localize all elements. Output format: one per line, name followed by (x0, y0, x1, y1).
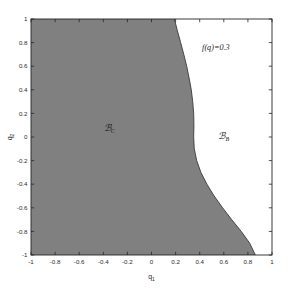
x-tick-label: 0.4 (195, 258, 204, 265)
contour-value-label: f(q)=0.3 (202, 43, 230, 52)
x-tick-label: -1 (28, 258, 34, 265)
x-tick-label: 1 (270, 258, 274, 265)
x-axis-tick-labels: -1-0.8-0.6-0.4-0.200.20.40.60.81 (28, 258, 274, 265)
y-tick-label: 0.4 (19, 86, 28, 93)
y-tick-label: -0.6 (17, 204, 28, 211)
x-tick-label: 0 (150, 258, 154, 265)
x-axis-title: q1 (148, 273, 155, 282)
x-tick-label: 0.2 (171, 258, 180, 265)
y-tick-label: 0.6 (19, 62, 28, 69)
x-tick-label: -0.4 (98, 258, 109, 265)
y-tick-label: 0.8 (19, 39, 28, 46)
x-tick-label: 0.8 (244, 258, 253, 265)
chart-annotations: f(q)=0.3 (202, 43, 230, 52)
y-tick-label: -0.4 (17, 180, 28, 187)
y-axis-tick-labels: -1-0.8-0.6-0.4-0.200.20.40.60.81 (17, 15, 28, 258)
x-tick-label: -0.8 (50, 258, 61, 265)
x-tick-label: -0.6 (74, 258, 85, 265)
x-tick-label: 0.6 (219, 258, 228, 265)
x-tick-label: -0.2 (122, 258, 133, 265)
y-tick-label: -1 (22, 251, 28, 258)
y-tick-label: 1 (24, 15, 28, 22)
plot-area: -1-0.8-0.6-0.4-0.200.20.40.60.81 -1-0.8-… (0, 0, 288, 288)
y-tick-label: 0.2 (19, 110, 28, 117)
figure-canvas: -1-0.8-0.6-0.4-0.200.20.40.60.81 -1-0.8-… (0, 0, 288, 288)
y-tick-label: -0.8 (17, 228, 28, 235)
y-tick-label: -0.2 (17, 157, 28, 164)
y-axis-title: q2 (6, 133, 15, 140)
y-tick-label: 0 (24, 133, 28, 140)
